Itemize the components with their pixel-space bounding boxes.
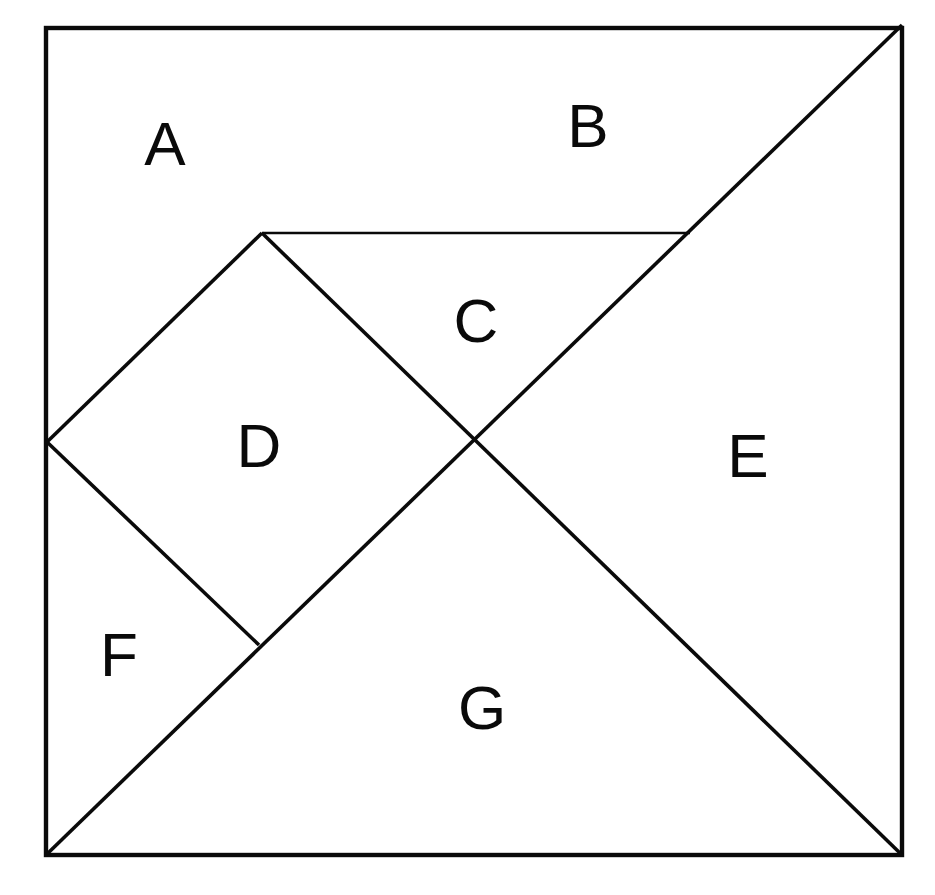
piece-label-a: A [144,109,186,178]
piece-label-g: G [458,673,506,742]
tangram-figure: ABCDEFG [0,0,935,895]
piece-label-e: E [727,421,768,490]
piece-label-f: F [100,620,138,689]
tangram-canvas: ABCDEFG [0,0,935,895]
piece-label-c: C [454,286,499,355]
piece-label-d: D [237,411,282,480]
piece-label-b: B [567,91,608,160]
